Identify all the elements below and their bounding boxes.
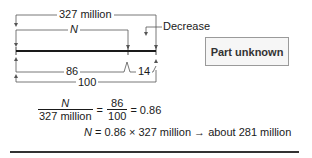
- fraction-numerator: N: [60, 97, 70, 109]
- arrow-up-icon: [14, 57, 18, 61]
- part-unknown-label: Part unknown: [211, 46, 284, 58]
- equals-sign: =: [97, 104, 103, 116]
- bottom-divider: [10, 151, 299, 153]
- fraction-numerator: 86: [110, 97, 124, 109]
- fraction-percent: 86 100: [107, 97, 127, 122]
- arrow-down-icon: [14, 23, 18, 27]
- part-unknown-box: Part unknown: [205, 37, 289, 66]
- arrow-up-icon: [14, 74, 18, 78]
- decrease-callout-line: [146, 27, 162, 33]
- whole-bottom-label: 100: [76, 77, 98, 88]
- fraction-denominator: 327 million: [38, 109, 93, 122]
- solution-lhs: N: [84, 126, 92, 138]
- part-top-label: N: [68, 24, 80, 35]
- decrease-label: Decrease: [163, 21, 210, 32]
- solution-equation: N = 0.86 × 327 million → about 281 milli…: [84, 126, 291, 138]
- equation-result: = 0.86: [130, 104, 161, 116]
- arrow-down-icon: [144, 32, 148, 36]
- arrow-down-icon: [14, 43, 18, 47]
- whole-top-label: 327 million: [57, 9, 114, 20]
- solution-rhs: = 0.86 × 327 million → about 281 million: [92, 126, 291, 138]
- remainder-bottom-label: 14: [136, 66, 152, 77]
- arrow-up-icon: [154, 59, 158, 63]
- proportion-equation: N 327 million = 86 100 = 0.86: [38, 97, 161, 122]
- fraction-denominator: 100: [107, 109, 127, 122]
- fraction-n-over-total: N 327 million: [38, 97, 93, 122]
- part-bracket-bottom: [16, 60, 156, 72]
